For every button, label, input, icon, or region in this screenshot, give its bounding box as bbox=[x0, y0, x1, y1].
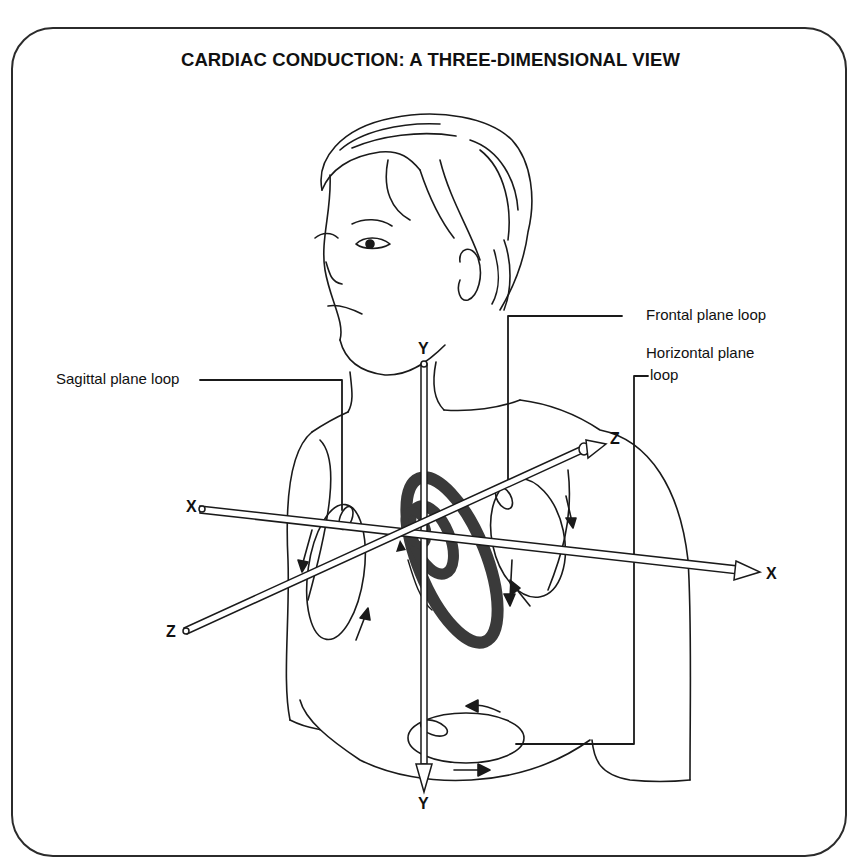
sagittal-plane-label: Sagittal plane loop bbox=[56, 370, 179, 387]
x-axis-left-label: X bbox=[186, 498, 197, 516]
sagittal-leader bbox=[200, 380, 342, 510]
horizontal-plane-label-line1: Horizontal plane bbox=[646, 344, 754, 361]
horizontal-plane-label-line2: loop bbox=[650, 366, 678, 383]
axes bbox=[183, 361, 760, 792]
z-axis-arrowhead bbox=[586, 440, 606, 458]
frontal-plane-label: Frontal plane loop bbox=[646, 306, 766, 323]
y-axis-top-label: Y bbox=[418, 340, 429, 358]
z-axis-lower-label: Z bbox=[166, 623, 176, 641]
z-axis-upper-label: Z bbox=[610, 430, 620, 448]
y-axis-bottom-label: Y bbox=[418, 795, 429, 813]
x-axis-arrowhead bbox=[734, 561, 760, 580]
torso-drawing bbox=[286, 400, 690, 782]
x-axis-right-label: X bbox=[766, 565, 777, 583]
z-axis-rod bbox=[184, 446, 585, 634]
y-axis-rod bbox=[421, 364, 427, 764]
